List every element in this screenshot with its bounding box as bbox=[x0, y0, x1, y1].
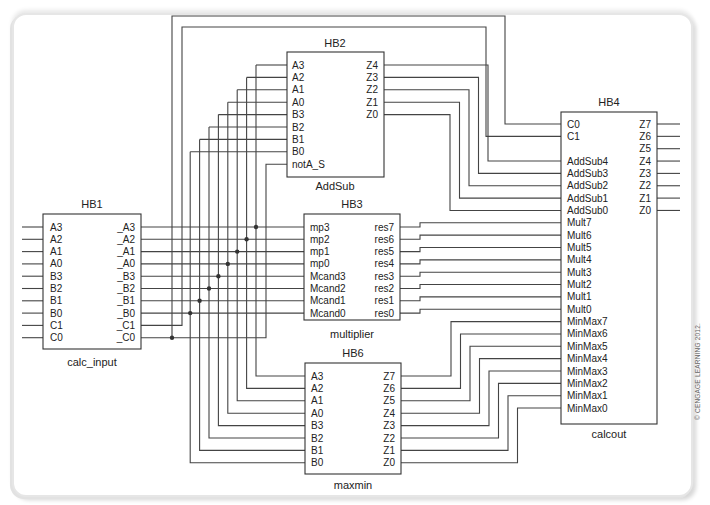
pin-label: B2 bbox=[311, 433, 324, 444]
pin-label: _C0 bbox=[116, 332, 136, 343]
pin-label: _C1 bbox=[116, 320, 136, 331]
minmax-wire bbox=[401, 408, 561, 463]
pin-label: Z7 bbox=[639, 119, 651, 130]
pin-label: res7 bbox=[375, 222, 395, 233]
minmax-wire bbox=[401, 383, 561, 438]
hb6-id: HB6 bbox=[342, 347, 363, 359]
pin-label: C1 bbox=[567, 131, 580, 142]
pin-label: B0 bbox=[50, 308, 63, 319]
mult-wire bbox=[400, 248, 561, 252]
pin-label: Z2 bbox=[383, 433, 395, 444]
pin-label: mp2 bbox=[310, 234, 330, 245]
pin-label: B1 bbox=[50, 295, 63, 306]
junction-dot bbox=[170, 336, 174, 340]
pin-label: Z1 bbox=[366, 97, 378, 108]
pin-label: A0 bbox=[311, 408, 324, 419]
hb3-id: HB3 bbox=[341, 198, 362, 210]
pin-label: A3 bbox=[292, 60, 305, 71]
pin-label: C1 bbox=[50, 320, 63, 331]
pin-label: Z4 bbox=[366, 60, 378, 71]
pin-label: Z4 bbox=[639, 156, 651, 167]
pin-label: res0 bbox=[375, 308, 395, 319]
pin-label: Z6 bbox=[639, 131, 651, 142]
pin-label: MinMax4 bbox=[567, 353, 608, 364]
pin-label: B3 bbox=[292, 109, 305, 120]
mult-wire bbox=[400, 297, 561, 301]
pin-label: Z3 bbox=[383, 420, 395, 431]
bus-wire bbox=[200, 139, 305, 450]
minmax-wire bbox=[401, 346, 561, 401]
pin-label: B0 bbox=[311, 457, 324, 468]
hb2-id: HB2 bbox=[324, 37, 345, 49]
pin-label: AddSub4 bbox=[567, 156, 609, 167]
addsub-wire bbox=[384, 115, 561, 211]
pin-label: res5 bbox=[375, 246, 395, 257]
pin-label: A1 bbox=[311, 395, 324, 406]
junction-dot bbox=[207, 286, 211, 290]
hb1-name: calc_input bbox=[67, 356, 117, 368]
minmax-wire bbox=[401, 396, 561, 451]
pin-label: Mcand1 bbox=[310, 295, 346, 306]
mult-wire bbox=[400, 309, 561, 313]
pin-label: B1 bbox=[292, 134, 305, 145]
pin-label: notA_S bbox=[292, 159, 325, 170]
block-hb6: HB6 maxmin A3A2A1A0B3B2B1B0Z7Z6Z5Z4Z3Z2Z… bbox=[305, 347, 401, 491]
schematic: HB1 calc_input A3A2A1A0B3B2B1B0C1C0_A3_A… bbox=[0, 0, 710, 505]
pin-label: Mult2 bbox=[567, 279, 592, 290]
pin-label: Z4 bbox=[383, 408, 395, 419]
pin-label: Z5 bbox=[639, 143, 651, 154]
mult-wire bbox=[400, 272, 561, 276]
hb3-name: multiplier bbox=[330, 328, 374, 340]
pin-label: Z7 bbox=[383, 371, 395, 382]
pin-label: Z2 bbox=[366, 84, 378, 95]
minmax-wire bbox=[401, 334, 561, 388]
pin-label: A0 bbox=[292, 97, 305, 108]
junction-dot bbox=[235, 249, 239, 253]
pin-label: B1 bbox=[311, 445, 324, 456]
pin-label: MinMax0 bbox=[567, 403, 608, 414]
pin-label: Z0 bbox=[366, 109, 378, 120]
pin-label: Mcand3 bbox=[310, 271, 346, 282]
pin-label: Mcand0 bbox=[310, 308, 346, 319]
pin-label: AddSub2 bbox=[567, 180, 609, 191]
pin-label: AddSub0 bbox=[567, 205, 609, 216]
pin-label: _B2 bbox=[116, 283, 135, 294]
mult-wire bbox=[400, 285, 561, 289]
mult-wire bbox=[400, 260, 561, 264]
pin-label: res6 bbox=[375, 234, 395, 245]
pin-label: res2 bbox=[375, 283, 395, 294]
hb4-id: HB4 bbox=[598, 96, 619, 108]
pin-label: A2 bbox=[311, 383, 324, 394]
pin-label: MinMax2 bbox=[567, 378, 608, 389]
pin-label: _B0 bbox=[116, 308, 135, 319]
pin-label: _B1 bbox=[116, 295, 135, 306]
hb2-name: AddSub bbox=[315, 180, 354, 192]
addsub-wire bbox=[384, 102, 561, 198]
pin-label: res4 bbox=[375, 258, 395, 269]
pin-label: res1 bbox=[375, 295, 395, 306]
pin-label: A2 bbox=[50, 234, 63, 245]
mult-wire bbox=[400, 235, 561, 239]
hb4-name: calcout bbox=[592, 428, 627, 440]
pin-label: C0 bbox=[50, 332, 63, 343]
pin-label: B3 bbox=[50, 271, 63, 282]
pin-label: Z5 bbox=[383, 395, 395, 406]
pin-label: res3 bbox=[375, 271, 395, 282]
pin-label: Z3 bbox=[639, 168, 651, 179]
pin-label: mp3 bbox=[310, 222, 330, 233]
minmax-wire bbox=[401, 371, 561, 426]
pin-label: A1 bbox=[50, 246, 63, 257]
bus-wire bbox=[190, 152, 305, 463]
pin-label: mp0 bbox=[310, 258, 330, 269]
pin-label: B3 bbox=[311, 420, 324, 431]
pin-label: _A3 bbox=[116, 222, 135, 233]
minmax-wire bbox=[401, 359, 561, 414]
pin-label: Z6 bbox=[383, 383, 395, 394]
block-hb2: HB2 AddSub A3A2A1A0B3B2B1B0notA_SZ4Z3Z2Z… bbox=[287, 37, 384, 192]
block-hb1: HB1 calc_input A3A2A1A0B3B2B1B0C1C0_A3_A… bbox=[43, 198, 141, 368]
pin-label: Z1 bbox=[639, 193, 651, 204]
junction-dot bbox=[216, 274, 220, 278]
pin-label: Mult4 bbox=[567, 254, 592, 265]
pin-label: A2 bbox=[292, 72, 305, 83]
pin-label: MinMax3 bbox=[567, 366, 608, 377]
